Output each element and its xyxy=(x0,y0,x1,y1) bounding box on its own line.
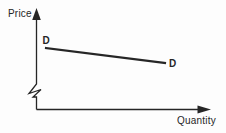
demand-label-right: D xyxy=(169,58,176,69)
demand-curve-figure: Price Quantity D D xyxy=(0,0,226,133)
chart-canvas: Price Quantity D D xyxy=(0,0,226,133)
demand-label-left: D xyxy=(42,35,49,46)
demand-curve-line xyxy=(46,48,165,63)
y-axis xyxy=(29,18,41,110)
y-axis-label: Price xyxy=(8,8,32,19)
y-axis-arrowhead xyxy=(32,8,41,20)
x-axis-arrowhead xyxy=(198,106,212,114)
x-axis-label: Quantity xyxy=(177,115,216,126)
